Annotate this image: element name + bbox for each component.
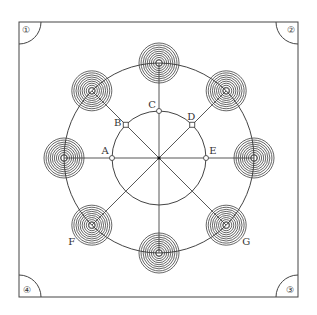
point-C xyxy=(157,109,162,114)
point-label-C: C xyxy=(148,99,156,110)
spokes xyxy=(64,63,254,253)
point-label-E: E xyxy=(209,145,216,156)
corner-number: ③ xyxy=(286,285,294,295)
point-B xyxy=(123,122,128,127)
point-A xyxy=(110,156,115,161)
corner-number: ② xyxy=(287,25,295,35)
point-D xyxy=(190,122,195,127)
corner-number: ① xyxy=(22,25,30,35)
corner-number: ④ xyxy=(23,285,31,295)
point-label-A: A xyxy=(100,145,109,156)
coil-label-G: G xyxy=(242,236,250,247)
point-label-B: B xyxy=(114,117,121,128)
point-E xyxy=(204,156,209,161)
corner-marker-1: ① xyxy=(19,22,41,44)
corner-marker-3: ③ xyxy=(276,275,298,297)
point-label-D: D xyxy=(187,111,195,122)
corner-marker-4: ④ xyxy=(19,275,41,297)
coil-label-F: F xyxy=(68,236,75,247)
corner-marker-2: ② xyxy=(276,22,298,44)
coil-layout-diagram: ①②③④ ABCDEGF xyxy=(0,0,317,315)
center-point xyxy=(157,156,160,159)
